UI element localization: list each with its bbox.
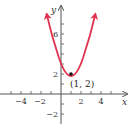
y-tick-label: 2	[53, 70, 58, 79]
parabola-graph: −4 −2 2 4 6 2 −2 x y (1, 2)	[0, 0, 133, 125]
x-tick-label: 2	[78, 97, 83, 106]
parabola-right-branch	[83, 14, 96, 59]
vertex-label: (1, 2)	[70, 79, 94, 89]
vertex-point	[69, 72, 73, 76]
x-tick-label: −4	[15, 97, 27, 106]
x-tick-label: 4	[98, 97, 103, 106]
x-axis-label: x	[122, 97, 127, 107]
y-tick-label: −2	[46, 110, 58, 119]
x-tick-label: −2	[34, 97, 46, 106]
y-tick-label: 6	[53, 30, 58, 39]
y-axis-label: y	[50, 5, 57, 15]
